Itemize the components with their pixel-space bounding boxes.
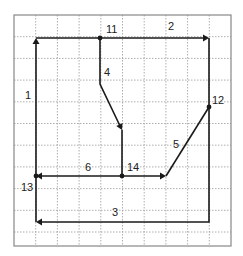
grid-flow-diagram: 12345611121314 [0, 0, 243, 256]
node-dot-12 [207, 105, 212, 110]
node-dot-13 [34, 174, 39, 179]
node-label-14: 14 [127, 161, 139, 173]
edge-3 [38, 38, 209, 222]
arrowhead-icon [203, 35, 209, 42]
edge-label-2: 2 [168, 20, 174, 32]
edge-4 [100, 38, 121, 128]
edge-label-3: 3 [112, 206, 118, 218]
node-dot-11 [98, 36, 103, 41]
edge-label-4: 4 [104, 66, 110, 78]
arrowhead-icon [33, 38, 40, 44]
arrowhead-icon [36, 219, 42, 226]
edge-label-5: 5 [173, 138, 179, 150]
node-dot-14 [120, 174, 125, 179]
edge-label-6: 6 [85, 161, 91, 173]
node-label-11: 11 [106, 23, 117, 35]
edges [33, 35, 210, 226]
node-label-12: 12 [212, 94, 224, 106]
edge-label-1: 1 [25, 89, 31, 101]
node-label-13: 13 [21, 181, 33, 193]
